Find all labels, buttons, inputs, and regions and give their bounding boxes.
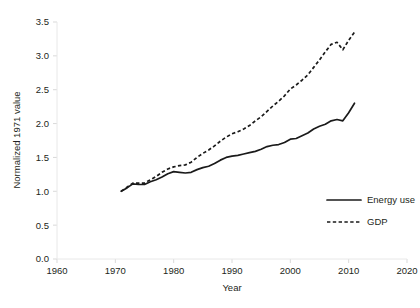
series-lines bbox=[121, 32, 354, 191]
y-tick-label: 1.5 bbox=[36, 152, 49, 163]
line-chart: 0.00.51.01.52.02.53.03.5 196019701980199… bbox=[0, 0, 420, 308]
x-tick-label: 1990 bbox=[221, 265, 242, 276]
x-tick-label: 1980 bbox=[163, 265, 184, 276]
legend-label-gdp: GDP bbox=[367, 216, 388, 227]
y-tick-label: 0.5 bbox=[36, 220, 49, 231]
chart-figure: 0.00.51.01.52.02.53.03.5 196019701980199… bbox=[0, 0, 420, 308]
x-tick-label: 2020 bbox=[396, 265, 417, 276]
y-axis-tick-labels: 0.00.51.01.52.02.53.03.5 bbox=[36, 16, 49, 264]
y-tick-label: 3.5 bbox=[36, 16, 49, 27]
y-axis-tick-marks bbox=[53, 22, 57, 259]
x-tick-label: 1970 bbox=[105, 265, 126, 276]
legend-label-energy-use: Energy use bbox=[367, 194, 415, 205]
y-axis-title: Normalized 1971 value bbox=[11, 91, 22, 188]
x-axis-tick-labels: 1960197019801990200020102020 bbox=[46, 265, 417, 276]
y-tick-label: 2.5 bbox=[36, 84, 49, 95]
x-tick-label: 2010 bbox=[338, 265, 359, 276]
series-line-energy-use bbox=[121, 103, 354, 191]
x-tick-label: 2000 bbox=[280, 265, 301, 276]
x-tick-label: 1960 bbox=[46, 265, 67, 276]
y-tick-label: 2.0 bbox=[36, 118, 49, 129]
x-axis-title: Year bbox=[222, 282, 241, 293]
y-tick-label: 1.0 bbox=[36, 186, 49, 197]
x-axis-tick-marks bbox=[57, 259, 407, 263]
y-tick-label: 3.0 bbox=[36, 50, 49, 61]
series-line-gdp bbox=[121, 32, 354, 191]
chart-legend: Energy useGDP bbox=[327, 194, 415, 227]
y-tick-label: 0.0 bbox=[36, 253, 49, 264]
